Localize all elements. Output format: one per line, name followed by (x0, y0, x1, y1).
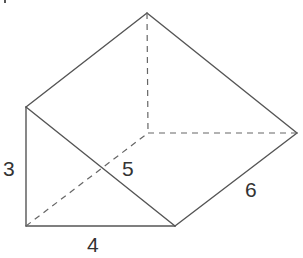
triangular-prism-diagram: 3 5 6 4 (0, 0, 303, 258)
label-height: 3 (3, 157, 15, 180)
hidden-edge-vertical (147, 13, 148, 133)
edge-top-right (147, 13, 297, 133)
edge-top-left (26, 13, 147, 107)
edge-bottom-right (175, 133, 297, 226)
edge-front-hypotenuse (26, 107, 175, 226)
label-hypotenuse: 5 (122, 157, 134, 180)
label-length: 6 (245, 178, 257, 201)
label-base: 4 (87, 233, 99, 256)
